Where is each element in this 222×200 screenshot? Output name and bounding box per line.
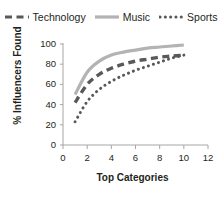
x-axis-title: Top Categories xyxy=(55,172,210,183)
axis-lines xyxy=(60,43,208,149)
x-tick-label: 0 xyxy=(53,152,73,163)
plot-area: % Influencers Found Top Categories 10080… xyxy=(0,0,222,200)
x-tick-label: 2 xyxy=(77,152,97,163)
series-line-music xyxy=(75,45,184,94)
y-tick-label: 40 xyxy=(30,99,56,110)
y-tick-label: 60 xyxy=(30,78,56,89)
data-series-group xyxy=(75,45,184,122)
y-axis-title: % Influencers Found xyxy=(12,21,23,131)
y-tick-label: 20 xyxy=(30,119,56,130)
y-tick-label: 100 xyxy=(30,38,56,49)
influencers-found-line-chart: Technology Music Sports xyxy=(0,0,222,200)
x-tick-label: 4 xyxy=(101,152,121,163)
x-tick-label: 10 xyxy=(174,152,194,163)
series-line-sports xyxy=(75,55,184,122)
x-tick-label: 12 xyxy=(198,152,218,163)
y-tick-label: 80 xyxy=(30,58,56,69)
x-tick-label: 6 xyxy=(126,152,146,163)
x-tick-label: 8 xyxy=(150,152,170,163)
y-tick-label: 0 xyxy=(30,139,56,150)
